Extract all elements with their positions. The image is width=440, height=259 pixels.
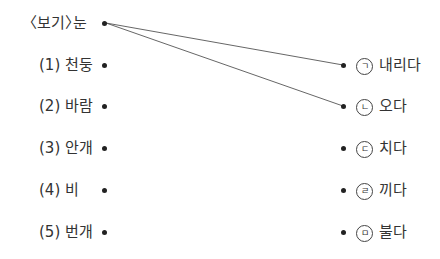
right-dot-2[interactable]: [341, 104, 346, 109]
left-dot-2[interactable]: [102, 104, 107, 109]
example-word: 눈: [73, 14, 87, 32]
circled-nieun-icon: ㄴ: [356, 99, 373, 116]
left-item-4: (4) 비: [39, 181, 79, 199]
right-item-5: ㅁ불다: [356, 223, 407, 242]
left-item-2: (2) 바람: [39, 97, 93, 115]
left-item-5: (5) 번개: [39, 223, 93, 241]
example-dot[interactable]: [102, 21, 107, 26]
left-dot-3[interactable]: [102, 146, 107, 151]
right-dot-4[interactable]: [341, 188, 346, 193]
circled-giyeok-icon: ㄱ: [356, 58, 373, 75]
left-item-3: (3) 안개: [39, 139, 93, 157]
line-example-to-giyeok: [106, 23, 343, 65]
circled-digeut-icon: ㄷ: [356, 141, 373, 158]
left-item-1: (1) 천둥: [39, 56, 93, 74]
right-item-3: ㄷ치다: [356, 139, 407, 158]
left-dot-4[interactable]: [102, 188, 107, 193]
right-dot-1[interactable]: [341, 63, 346, 68]
line-example-to-nieun: [106, 23, 343, 106]
right-item-1: ㄱ내리다: [356, 56, 421, 75]
example-prefix: 〈보기〉: [22, 14, 80, 32]
left-dot-1[interactable]: [102, 63, 107, 68]
right-item-4: ㄹ끼다: [356, 181, 407, 200]
left-dot-5[interactable]: [102, 230, 107, 235]
right-dot-5[interactable]: [341, 230, 346, 235]
right-dot-3[interactable]: [341, 146, 346, 151]
right-item-2: ㄴ오다: [356, 97, 407, 116]
connection-lines: [0, 0, 440, 259]
circled-rieul-icon: ㄹ: [356, 183, 373, 200]
circled-mieum-icon: ㅁ: [356, 225, 373, 242]
